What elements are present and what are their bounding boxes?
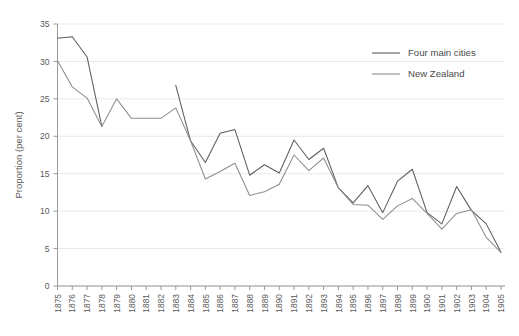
y-tick-label: 5 <box>45 244 50 254</box>
chart-container: 05101520253035 1875187618771878187918801… <box>0 0 519 336</box>
y-tick-label: 15 <box>40 169 50 179</box>
y-axis-label: Proportion (per cent) <box>13 111 24 198</box>
y-tick-label: 10 <box>40 206 50 216</box>
x-tick-label: 1898 <box>393 294 403 313</box>
x-tick-label: 1889 <box>260 294 270 313</box>
x-tick-label: 1880 <box>127 294 137 313</box>
y-tick-label: 30 <box>40 57 50 67</box>
x-tick-label: 1890 <box>274 294 284 313</box>
x-tick-label: 1881 <box>141 294 151 313</box>
x-tick-label: 1877 <box>82 294 92 313</box>
x-tick-label: 1894 <box>334 294 344 313</box>
legend-label-four-main-cities[interactable]: Four main cities <box>408 47 476 58</box>
x-tick-label: 1905 <box>496 294 506 313</box>
x-tick-label: 1901 <box>437 294 447 313</box>
x-tick-label: 1876 <box>67 294 77 313</box>
x-tick-label: 1903 <box>467 294 477 313</box>
x-tick-label: 1886 <box>215 294 225 313</box>
x-tick-label: 1887 <box>230 294 240 313</box>
x-tick-label: 1896 <box>363 294 373 313</box>
x-tick-label: 1891 <box>289 294 299 313</box>
x-tick-labels: 1875187618771878187918801881188218831884… <box>53 294 507 313</box>
y-tick-label: 20 <box>40 131 50 141</box>
line-chart: 05101520253035 1875187618771878187918801… <box>0 0 519 336</box>
x-tick-label: 1884 <box>186 294 196 313</box>
x-tick-label: 1875 <box>53 294 63 313</box>
y-tick-label: 25 <box>40 94 50 104</box>
y-tick-label: 35 <box>40 19 50 29</box>
x-tick-label: 1888 <box>245 294 255 313</box>
x-tick-label: 1883 <box>171 294 181 313</box>
x-tick-label: 1885 <box>201 294 211 313</box>
x-tick-label: 1892 <box>304 294 314 313</box>
x-tick-label: 1895 <box>348 294 358 313</box>
x-tick-label: 1899 <box>408 294 418 313</box>
x-tick-label: 1879 <box>112 294 122 313</box>
x-tick-label: 1897 <box>378 294 388 313</box>
x-tick-label: 1878 <box>97 294 107 313</box>
x-tick-label: 1900 <box>422 294 432 313</box>
x-tick-label: 1893 <box>319 294 329 313</box>
x-tick-label: 1902 <box>452 294 462 313</box>
x-tick-label: 1882 <box>156 294 166 313</box>
legend-label-new-zealand[interactable]: New Zealand <box>408 68 465 79</box>
y-tick-label: 0 <box>45 281 50 291</box>
x-tick-label: 1904 <box>481 294 491 313</box>
